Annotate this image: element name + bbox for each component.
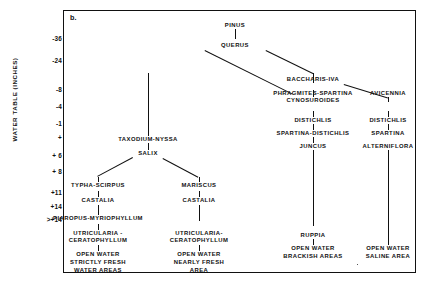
node-open-saline-2: SALINE AREA	[366, 253, 411, 260]
tick-label-1: -24	[18, 57, 62, 64]
node-utricularia-left-2: CERATOPHYLLUM	[69, 237, 128, 244]
node-utricularia-right-2: CERATOPHYLLUM	[170, 237, 229, 244]
node-alterniflora: ALTERNIFLORA	[363, 143, 414, 150]
tick-label-6: + 6	[18, 152, 62, 159]
edge-baccharis-avicennia-vertical	[388, 97, 389, 102]
edge-castalia-utricularia-right	[199, 205, 200, 221]
node-open-brackish-2: BRACKISH AREAS	[283, 253, 342, 260]
node-open-nearly-2: NEARLY FRESH	[174, 259, 225, 266]
tick-label-8: +11	[18, 189, 62, 196]
node-open-saline-1: OPEN WATER	[366, 245, 410, 252]
node-piaropus: PIAROPUS-MYRIOPHYLLUM	[53, 215, 143, 222]
node-distichlis-right: DISTICHLIS	[369, 117, 406, 124]
edge-querus-left-vertical	[148, 73, 149, 136]
node-taxodium-nyssa: TAXODIUM-NYSSA	[118, 136, 178, 143]
tick-label-5: +	[18, 134, 62, 141]
edge-alterniflora-openwater	[388, 150, 389, 245]
node-mariscus: MARISCUS	[181, 182, 216, 189]
node-spartina-right: SPARTINA	[371, 130, 404, 137]
tick-label-4: -1	[18, 120, 62, 127]
node-ruppia: RUPPIA	[301, 232, 326, 239]
node-cynosuroides: CYNOSUROIDES	[286, 97, 339, 104]
node-baccharis-iva: BACCHARIS-IVA	[287, 76, 340, 83]
node-open-fresh-3: WATER AREAS	[74, 267, 122, 274]
node-open-fresh-2: STRICTLY FRESH	[70, 259, 126, 266]
node-open-nearly-3: AREA	[190, 267, 209, 274]
node-avicennia: AVICENNIA	[370, 90, 406, 97]
panel-label: b.	[70, 13, 76, 22]
node-spartina-distichlis: SPARTINA-DISTICHLIS	[277, 130, 350, 137]
node-salix: SALIX	[138, 150, 158, 157]
node-typha-scirpus: TYPHA-SCIRPUS	[71, 182, 125, 189]
node-pinus: PINUS	[225, 22, 245, 29]
tick-label-3: -4	[18, 103, 62, 110]
node-open-brackish-1: OPEN WATER	[291, 245, 335, 252]
node-castalia-left: CASTALIA	[82, 197, 115, 204]
tick-label-7: + 8	[18, 168, 62, 175]
node-open-nearly-1: OPEN WATER	[177, 251, 221, 258]
edge-castalia-piaropus	[98, 205, 99, 215]
tick-label-0: -36	[18, 35, 62, 42]
node-juncus: JUNCUS	[300, 143, 327, 150]
stray-mark	[357, 264, 358, 265]
y-axis-title: WATER TABLE (INCHES)	[11, 34, 18, 166]
edge-juncus-ruppia	[313, 150, 314, 226]
edge-taxodium-salix	[148, 143, 149, 150]
node-open-fresh-1: OPEN WATER	[76, 251, 120, 258]
y-axis-ticks: -36 -24 -8 -4 -1 + + 6 + 8 +11 +14 >+14	[10, 0, 62, 284]
figure-panel: -36 -24 -8 -4 -1 + + 6 + 8 +11 +14 >+14 …	[0, 0, 427, 284]
edge-pinus-querus	[235, 29, 236, 39]
node-distichlis-left: DISTICHLIS	[294, 117, 331, 124]
tick-label-2: -8	[18, 86, 62, 93]
tick-label-9: +14	[18, 203, 62, 210]
node-querus: QUERUS	[221, 42, 249, 49]
node-castalia-right: CASTALIA	[183, 197, 216, 204]
